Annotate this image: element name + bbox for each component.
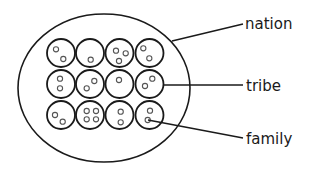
family-dot: [53, 47, 58, 52]
tribe-circle: [106, 70, 134, 98]
tribe-circle-group: [76, 101, 104, 129]
tribe-circle-group: [106, 70, 134, 98]
tribe-circle-group: [47, 101, 75, 129]
labels: nation tribe family: [245, 15, 292, 148]
tribe-circle-group: [76, 70, 104, 98]
tribe-grid: [47, 39, 164, 129]
tribe-circle-group: [136, 39, 164, 67]
family-dot: [123, 51, 128, 56]
tribe-circle-group: [136, 101, 164, 129]
tribe-circle: [106, 39, 134, 67]
family-dot: [84, 86, 89, 91]
tribe-circle-group: [106, 39, 134, 67]
family-dot: [84, 108, 89, 113]
family-dot: [116, 77, 121, 82]
leader-line-family: [148, 120, 243, 138]
family-dot: [88, 57, 93, 62]
family-dot: [147, 108, 152, 113]
tribe-circle: [76, 70, 104, 98]
tribe-circle-group: [47, 39, 75, 67]
tribe-circle-group: [136, 70, 164, 98]
tribe-circle: [136, 39, 164, 67]
family-dot: [116, 58, 121, 63]
family-dot: [57, 76, 62, 81]
label-tribe: tribe: [246, 77, 281, 95]
tribe-circle: [76, 101, 104, 129]
family-dot: [93, 108, 98, 113]
tribe-circle: [47, 39, 75, 67]
family-dot: [113, 48, 118, 53]
family-dot: [118, 109, 123, 114]
tribe-circle: [47, 101, 75, 129]
family-dot: [84, 117, 89, 122]
tribe-circle: [136, 101, 164, 129]
label-nation: nation: [245, 15, 292, 33]
family-dot: [141, 46, 146, 51]
leader-line-nation: [172, 24, 243, 41]
tribe-circle: [76, 39, 104, 67]
family-dot: [61, 56, 66, 61]
family-dot: [52, 112, 57, 117]
family-dot: [142, 83, 147, 88]
tribe-circle-group: [76, 39, 104, 67]
family-dot: [118, 120, 123, 125]
family-dot: [57, 86, 62, 91]
tribe-circle: [136, 70, 164, 98]
family-dot: [92, 78, 97, 83]
family-dot: [147, 56, 152, 61]
tribe-circle-group: [106, 101, 134, 129]
tribe-circle: [47, 70, 75, 98]
family-dot: [60, 119, 65, 124]
label-family: family: [246, 130, 292, 148]
tribe-circle-group: [47, 70, 75, 98]
family-dot: [150, 76, 155, 81]
family-dot: [93, 117, 98, 122]
nation-tribe-family-diagram: nation tribe family: [0, 0, 313, 174]
